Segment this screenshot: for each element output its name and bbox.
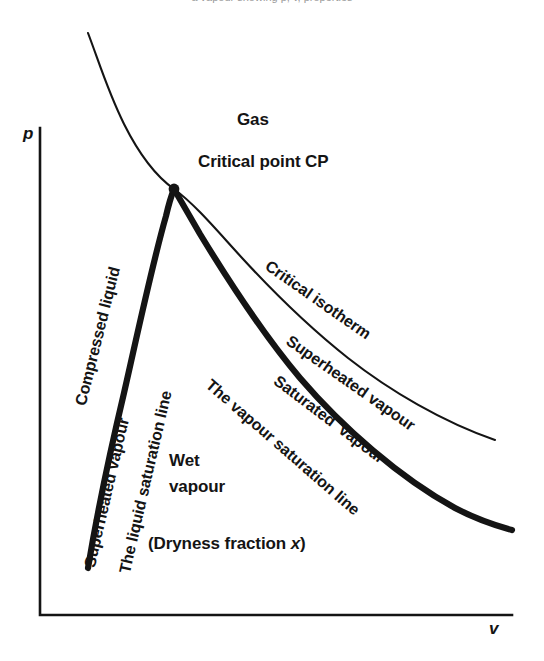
dryness-fraction-prefix: (Dryness fraction: [148, 534, 291, 553]
label-dryness-fraction: (Dryness fraction x): [148, 534, 306, 553]
dryness-fraction-suffix: ): [300, 534, 306, 553]
y-axis-label-p: p: [23, 124, 33, 143]
dryness-fraction-variable: x: [291, 534, 300, 553]
pv-phase-diagram-figure: a vapour showing p, v, properties p v Ga…: [0, 0, 544, 661]
label-critical-point: Critical point CP: [198, 152, 329, 171]
critical-point-marker: [169, 184, 180, 195]
label-gas: Gas: [237, 110, 269, 129]
label-wet-vapour-line1: Wet: [169, 451, 200, 470]
x-axis-label-v: v: [489, 619, 498, 638]
label-wet-vapour-line2: vapour: [169, 477, 225, 496]
